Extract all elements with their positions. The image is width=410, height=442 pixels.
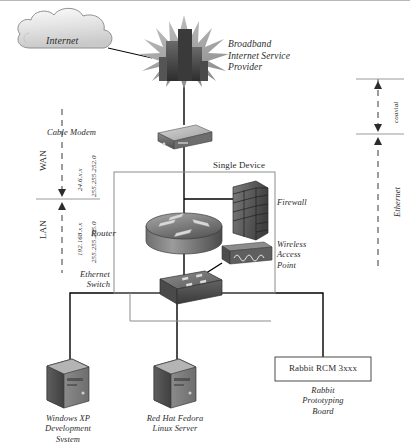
linux-server-label: Red Hat Fedora Linux Server xyxy=(131,413,219,434)
windows-xp-label: Windows XP Development System xyxy=(24,413,112,442)
linux-server-icon xyxy=(154,359,196,408)
coaxial-label: coaxial xyxy=(392,102,401,123)
isp-label: Broadband Internet Service Provider xyxy=(228,39,290,74)
lan-label: LAN xyxy=(38,220,49,239)
ethernet-label: Ethernet xyxy=(392,187,402,217)
single-device-label: Single Device xyxy=(213,160,265,171)
wan-mask-label: 255.255.252.0 xyxy=(90,155,99,197)
internet-label: Internet xyxy=(46,35,78,47)
ethernet-switch-label: Ethernet Switch xyxy=(52,269,110,290)
lan-ip-label: 192.168.x.x xyxy=(76,222,85,256)
wan-label: WAN xyxy=(38,150,49,171)
wireless-access-point-label: Wireless Access Point xyxy=(277,239,306,270)
router-icon xyxy=(146,213,222,254)
lan-mask-label: 255.255.255.0 xyxy=(90,221,99,263)
wan-ip-label: 24.6.x.x xyxy=(76,168,85,191)
windows-xp-pc-icon xyxy=(47,359,89,408)
wireless-access-point-icon xyxy=(222,242,272,264)
rabbit-board-box-label: Rabbit RCM 3xxx xyxy=(275,363,371,374)
diagram-vector-layer xyxy=(0,1,410,442)
rabbit-board-caption: Rabbit Prototyping Board xyxy=(277,385,369,416)
firewall-label: Firewall xyxy=(277,197,307,207)
isp-buildings-icon xyxy=(159,29,208,81)
cable-modem-label: Cable Modem xyxy=(24,127,96,137)
firewall-icon xyxy=(233,181,268,240)
ethernet-switch-icon xyxy=(160,271,222,304)
network-diagram-canvas: Internet Broadband Internet Service Prov… xyxy=(0,0,410,442)
cable-modem-icon xyxy=(158,125,212,149)
